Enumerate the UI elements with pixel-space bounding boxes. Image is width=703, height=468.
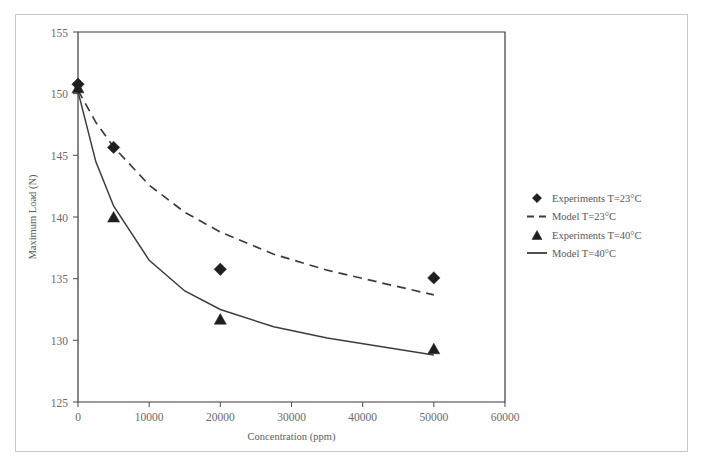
- y-tick-label: 155: [51, 27, 69, 39]
- legend-item-label: Experiments T=23°C: [552, 193, 642, 204]
- legend-item-model-40c[interactable]: Model T=40°C: [527, 248, 616, 259]
- x-axis-ticks: [78, 402, 505, 407]
- triangle-marker-icon: [532, 231, 542, 240]
- legend-item-experiments-40c[interactable]: Experiments T=40°C: [532, 230, 642, 241]
- x-tick-label: 60000: [491, 411, 520, 423]
- x-tick-label: 40000: [348, 411, 377, 423]
- legend-item-label: Model T=23°C: [552, 211, 616, 222]
- data-point-diamond: [428, 272, 440, 284]
- data-point-diamond: [214, 263, 226, 275]
- legend-item-label: Experiments T=40°C: [552, 230, 642, 241]
- x-axis-tick-labels: 0 10000 20000 30000 40000 50000 60000: [75, 411, 520, 423]
- series-experiments-40c: [72, 82, 440, 354]
- data-point-triangle: [214, 314, 226, 325]
- chart-canvas: 155 150 145 140 135 130 125 0 10000 2000…: [0, 0, 703, 468]
- diamond-marker-icon: [532, 194, 541, 203]
- y-axis-title: Maximum Load (N): [27, 174, 39, 260]
- y-tick-label: 140: [51, 212, 69, 224]
- series-experiments-23c: [72, 78, 440, 284]
- y-tick-label: 145: [51, 150, 69, 162]
- data-point-triangle: [428, 343, 440, 354]
- y-axis-tick-labels: 155 150 145 140 135 130 125: [51, 27, 69, 409]
- y-tick-label: 150: [51, 88, 69, 100]
- chart-legend: Experiments T=23°C Model T=23°C Experime…: [527, 193, 642, 259]
- x-tick-label: 20000: [206, 411, 235, 423]
- plot-frame: [78, 32, 505, 402]
- x-axis-title: Concentration (ppm): [248, 431, 336, 443]
- x-tick-label: 50000: [419, 411, 448, 423]
- legend-item-experiments-23c[interactable]: Experiments T=23°C: [532, 193, 641, 204]
- y-tick-label: 130: [51, 335, 69, 347]
- series-model-40c: [78, 91, 434, 355]
- x-tick-label: 10000: [135, 411, 164, 423]
- legend-item-label: Model T=40°C: [552, 248, 616, 259]
- y-tick-label: 125: [51, 397, 69, 409]
- series-model-23c: [78, 90, 434, 295]
- y-tick-label: 135: [51, 273, 69, 285]
- legend-item-model-23c[interactable]: Model T=23°C: [527, 211, 616, 222]
- data-point-diamond: [107, 141, 119, 153]
- figure-root: 155 150 145 140 135 130 125 0 10000 2000…: [0, 0, 703, 468]
- x-tick-label: 0: [75, 411, 81, 423]
- x-tick-label: 30000: [277, 411, 306, 423]
